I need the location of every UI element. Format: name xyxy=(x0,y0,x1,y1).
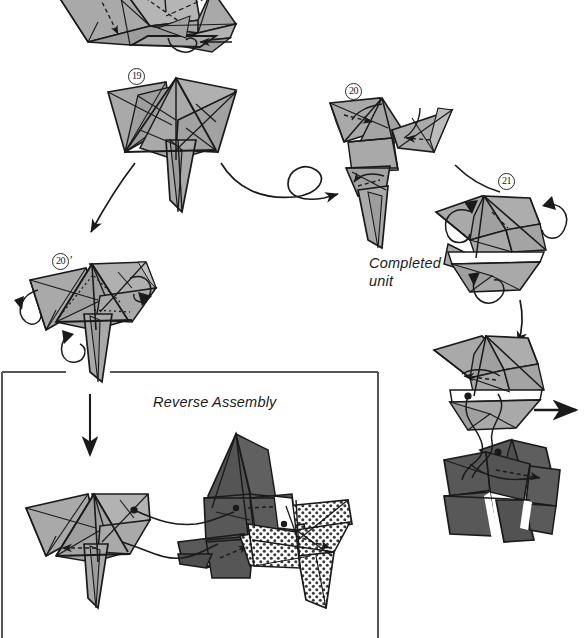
figure-step-21 xyxy=(436,196,567,303)
figure-step-20-prime xyxy=(14,262,156,382)
prime-mark: ′ xyxy=(70,253,73,267)
step-label-19: 19 xyxy=(128,68,145,85)
caption-completed-unit: Completed unit xyxy=(369,255,441,290)
caption-reverse-assembly: Reverse Assembly xyxy=(153,394,277,412)
step-number-20: 20 xyxy=(345,83,362,100)
figure-join-dark xyxy=(444,440,560,542)
step-number-19: 19 xyxy=(128,68,145,85)
figure-step-20 xyxy=(330,98,452,248)
arrow-turn-over-loop xyxy=(221,163,338,199)
origami-diagram-page: 19 20 21 20′ Completed unit Reverse Asse… xyxy=(0,0,585,638)
figure-step-19 xyxy=(108,78,236,212)
arrow-19-to-20-prime xyxy=(91,163,135,232)
diagram-canvas xyxy=(0,0,585,638)
figure-join-light xyxy=(434,336,544,430)
step-label-20: 20 xyxy=(345,83,362,100)
figure-top-partial xyxy=(48,0,236,52)
step-label-20-prime: 20′ xyxy=(52,253,73,270)
step-label-21: 21 xyxy=(498,173,515,190)
step-number-21: 21 xyxy=(498,173,515,190)
step-number-20-prime: 20 xyxy=(52,253,69,270)
arrow-20-to-21 xyxy=(455,165,500,192)
